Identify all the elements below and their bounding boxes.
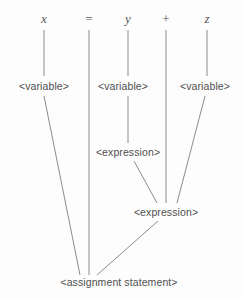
- token-tok-z: z: [202, 11, 211, 26]
- nonterminal-var-x: <variable>: [17, 80, 71, 93]
- nonterminal-var-z: <variable>: [178, 80, 232, 93]
- token-tok-y: y: [123, 11, 133, 26]
- tree-edge-var-x-to-assign: [44, 96, 80, 275]
- tree-edge-expr-lower-to-assign: [97, 221, 158, 275]
- tree-edge-expr-upper-to-expr-lower: [134, 161, 157, 203]
- nonterminal-var-y: <variable>: [96, 80, 150, 93]
- token-tok-eq: =: [83, 11, 94, 26]
- nonterminal-assign: <assignment statement>: [58, 276, 179, 289]
- token-tok-x: x: [39, 11, 49, 26]
- token-tok-plus: +: [160, 11, 171, 26]
- nonterminal-expr-upper: <expression>: [94, 146, 162, 159]
- parse-tree-diagram: x=y+z<variable><variable><variable><expr…: [0, 0, 243, 298]
- nonterminal-expr-lower: <expression>: [132, 206, 200, 219]
- tree-edge-var-z-to-expr-lower: [177, 96, 205, 203]
